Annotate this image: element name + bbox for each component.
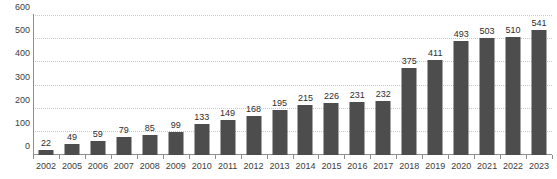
y-axis-tick-label: 500 bbox=[4, 26, 30, 35]
bar[interactable] bbox=[90, 141, 105, 155]
bar-value-label: 231 bbox=[350, 91, 365, 100]
x-axis-tick-label: 2014 bbox=[295, 161, 315, 171]
x-axis-tick-mark bbox=[318, 155, 319, 159]
y-axis-tick-label: 600 bbox=[4, 3, 30, 12]
bar-slot: 375 bbox=[396, 16, 422, 155]
x-axis-tick-mark bbox=[59, 155, 60, 159]
x-axis-tick-mark bbox=[526, 155, 527, 159]
y-axis-tick-label: 400 bbox=[4, 49, 30, 58]
bar-series: 2249597985991331491681952152262312323754… bbox=[33, 16, 552, 155]
x-axis-tick-mark bbox=[33, 155, 34, 159]
x-axis-tick-mark bbox=[189, 155, 190, 159]
bar-slot: 510 bbox=[500, 16, 526, 155]
bar-slot: 133 bbox=[189, 16, 215, 155]
bar-slot: 195 bbox=[267, 16, 293, 155]
bar-value-label: 133 bbox=[194, 113, 209, 122]
x-axis-tick-label: 2006 bbox=[88, 161, 108, 171]
x-axis-tick-label: 2009 bbox=[166, 161, 186, 171]
x-axis-tick-label: 2010 bbox=[192, 161, 212, 171]
bar[interactable] bbox=[194, 124, 209, 155]
bar-slot: 226 bbox=[318, 16, 344, 155]
bar[interactable] bbox=[220, 120, 235, 155]
bar-value-label: 375 bbox=[402, 57, 417, 66]
bar-value-label: 215 bbox=[298, 94, 313, 103]
bar-value-label: 493 bbox=[454, 30, 469, 39]
x-axis-tick-mark bbox=[422, 155, 423, 159]
y-axis-tick-label: 0 bbox=[4, 142, 30, 151]
bar-slot: 22 bbox=[33, 16, 59, 155]
x-axis-tick-mark bbox=[370, 155, 371, 159]
bar[interactable] bbox=[168, 132, 183, 155]
x-axis-tick-mark bbox=[344, 155, 345, 159]
x-axis-tick-label: 2012 bbox=[244, 161, 264, 171]
bar[interactable] bbox=[532, 30, 547, 155]
bar-slot: 79 bbox=[111, 16, 137, 155]
x-axis-tick-label: 2015 bbox=[321, 161, 341, 171]
x-axis-tick-label: 2019 bbox=[425, 161, 445, 171]
bar-slot: 232 bbox=[370, 16, 396, 155]
bar[interactable] bbox=[376, 101, 391, 155]
bar-slot: 411 bbox=[422, 16, 448, 155]
x-axis-tick-mark bbox=[396, 155, 397, 159]
y-axis-tick-label: 100 bbox=[4, 119, 30, 128]
x-axis-tick-label: 2008 bbox=[140, 161, 160, 171]
x-axis-tick-mark bbox=[500, 155, 501, 159]
x-axis-tick-mark bbox=[85, 155, 86, 159]
bar-slot: 503 bbox=[474, 16, 500, 155]
x-axis-tick-label: 2005 bbox=[62, 161, 82, 171]
x-axis-tick-mark bbox=[267, 155, 268, 159]
x-axis-tick-label: 2007 bbox=[114, 161, 134, 171]
bar[interactable] bbox=[350, 102, 365, 156]
x-axis-tick-mark bbox=[448, 155, 449, 159]
x-axis-tick-label: 2002 bbox=[36, 161, 56, 171]
bar[interactable] bbox=[480, 38, 495, 155]
bar-slot: 85 bbox=[137, 16, 163, 155]
bar[interactable] bbox=[428, 60, 443, 155]
bar-value-label: 149 bbox=[220, 109, 235, 118]
x-axis-tick-label: 2022 bbox=[503, 161, 523, 171]
bar-slot: 231 bbox=[344, 16, 370, 155]
bar[interactable] bbox=[402, 68, 417, 155]
bar-value-label: 232 bbox=[376, 90, 391, 99]
bar[interactable] bbox=[64, 144, 79, 155]
bar[interactable] bbox=[506, 37, 521, 155]
y-axis-tick-label: 300 bbox=[4, 73, 30, 82]
bar-value-label: 541 bbox=[532, 19, 547, 28]
x-axis-category-labels: 2002200520062007200820092010201120122013… bbox=[33, 161, 552, 175]
bar[interactable] bbox=[246, 116, 261, 155]
bar-value-label: 226 bbox=[324, 92, 339, 101]
x-axis-tick-label: 2016 bbox=[347, 161, 367, 171]
bar-value-label: 503 bbox=[480, 27, 495, 36]
x-axis-tick-label: 2020 bbox=[451, 161, 471, 171]
bar[interactable] bbox=[272, 110, 287, 155]
bar-value-label: 168 bbox=[246, 105, 261, 114]
bar-value-label: 195 bbox=[272, 99, 287, 108]
bar-value-label: 99 bbox=[171, 121, 181, 130]
x-axis-tick-label: 2013 bbox=[270, 161, 290, 171]
bar-slot: 215 bbox=[293, 16, 319, 155]
bar[interactable] bbox=[298, 105, 313, 155]
x-axis-tick-mark bbox=[293, 155, 294, 159]
x-axis-tick-mark bbox=[552, 155, 553, 159]
bar[interactable] bbox=[454, 41, 469, 155]
x-axis-tick-label: 2018 bbox=[399, 161, 419, 171]
bar-slot: 49 bbox=[59, 16, 85, 155]
bar[interactable] bbox=[142, 135, 157, 155]
bar-value-label: 411 bbox=[428, 49, 442, 58]
bar-value-label: 79 bbox=[119, 126, 129, 135]
x-axis-tick-mark bbox=[474, 155, 475, 159]
x-axis-tick-label: 2023 bbox=[529, 161, 549, 171]
x-axis-tick-label: 2017 bbox=[373, 161, 393, 171]
x-axis-tick-mark bbox=[163, 155, 164, 159]
x-axis-tick-mark bbox=[241, 155, 242, 159]
bar[interactable] bbox=[116, 137, 131, 155]
x-axis-tick-label: 2011 bbox=[218, 161, 237, 171]
x-axis-tick-mark bbox=[215, 155, 216, 159]
x-axis-tick-label: 2021 bbox=[477, 161, 497, 171]
bar-chart: 0100200300400500600 22495979859913314916… bbox=[0, 0, 557, 179]
x-axis-tick-mark bbox=[137, 155, 138, 159]
bar[interactable] bbox=[324, 103, 339, 155]
bar-slot: 99 bbox=[163, 16, 189, 155]
bar-slot: 493 bbox=[448, 16, 474, 155]
bar-value-label: 22 bbox=[41, 139, 51, 148]
